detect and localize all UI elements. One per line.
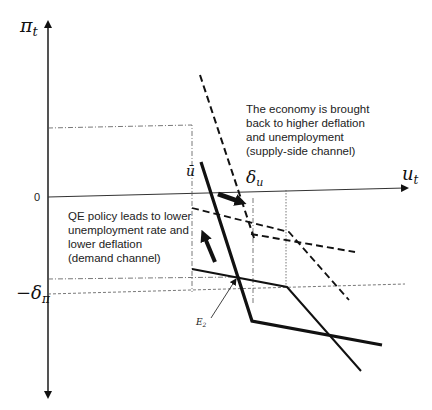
svg-text:(supply-side channel): (supply-side channel) [246,145,355,157]
neg-delta-pi-label: −δπ [16,282,51,306]
svg-text:back to higher deflation: back to higher deflation [246,117,365,129]
svg-text:(demand channel): (demand channel) [68,252,161,264]
x-axis-label: ut [402,163,419,187]
neg-delta-pi-guide [48,284,405,294]
origin-label: 0 [34,191,40,203]
y-axis-label: πt [19,14,39,39]
demand-shift-arrow [205,238,215,262]
svg-text:The economy is brought: The economy is brought [246,103,370,115]
u-bar-guide [48,125,192,292]
e2-pointer-arrow [211,279,236,318]
shifted-curve-2 [251,234,355,252]
e2-level-guide [48,277,240,279]
svg-text:and unemployment: and unemployment [246,131,345,143]
svg-text:unemployment rate and: unemployment rate and [68,224,189,236]
u-bar-label: ū [186,163,195,179]
delta-u-label: δu [246,167,263,189]
demand-annotation: QE policy leads to lower unemployment ra… [68,210,192,264]
supply-shift-arrow [218,194,238,201]
movement-arrows [205,194,238,318]
e2-label: E2 [195,317,207,328]
svg-text:QE policy leads to lower: QE policy leads to lower [68,210,192,222]
svg-text:lower deflation: lower deflation [68,238,142,250]
qe-phillips-diagram: πt ut 0 −δπ ū δu E2 The economy is broug… [0,0,432,410]
supply-side-annotation: The economy is brought back to higher de… [246,103,370,157]
